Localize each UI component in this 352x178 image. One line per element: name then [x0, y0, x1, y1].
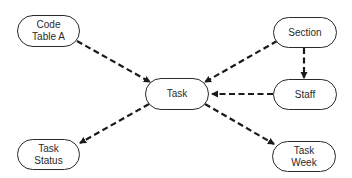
node-staff: Staff [273, 79, 337, 110]
edge-code-table-a-to-task [77, 41, 150, 82]
node-task-status: Task Status [17, 139, 80, 170]
edge-task-to-task-week [205, 104, 274, 144]
node-task: Task [145, 78, 209, 110]
edge-section-to-task [205, 41, 277, 82]
node-code-table-a: Code Table A [17, 15, 80, 47]
node-section: Section [273, 17, 337, 48]
edge-task-to-task-status [80, 104, 149, 143]
node-task-week: Task Week [272, 141, 336, 172]
entity-relationship-diagram: Code Table A Section Task Staff Task Sta… [0, 0, 352, 178]
